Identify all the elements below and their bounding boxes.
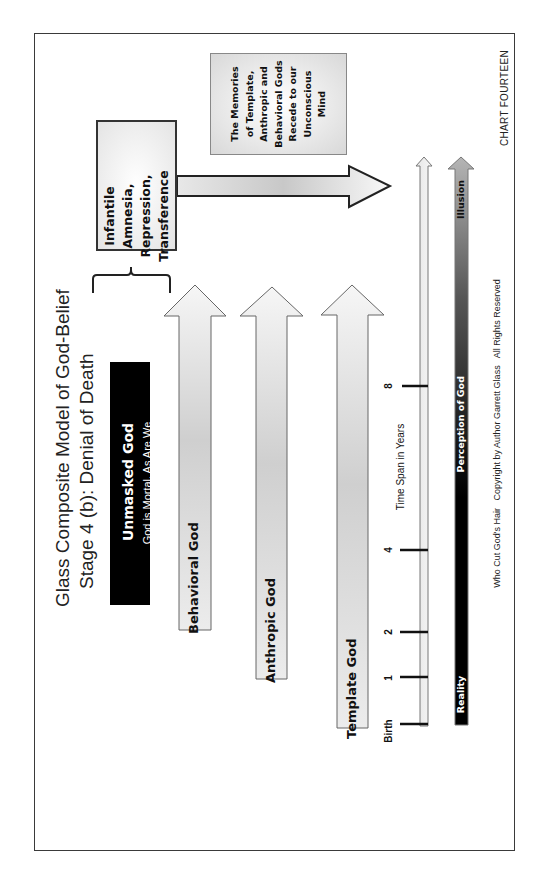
memories-line: of Template, — [243, 54, 258, 154]
timeline-arrow — [416, 157, 432, 726]
tick-label-8: 8 — [383, 379, 397, 393]
perception-illusion-label: Illusion — [455, 177, 468, 223]
infantile-line: Infantile — [101, 151, 119, 282]
perception-reality-label: Reality — [455, 670, 468, 720]
memories-line: Anthropic and — [257, 54, 272, 154]
memories-line: Unconscious — [301, 54, 316, 154]
anthropic-god-label: Anthropic God — [263, 583, 281, 683]
perception-of-god-label: Perception of God — [455, 383, 468, 473]
infantile-amnesia-text: Infantile Amnesia, Repression, Transfere… — [97, 151, 177, 282]
timeline-axis-label: Time Span in Years — [395, 417, 409, 517]
tick-label-2: 2 — [383, 625, 397, 639]
memories-text: The Memories of Template, Anthropic and … — [229, 54, 329, 154]
memories-line: Recede to our — [286, 54, 301, 154]
infantile-line: Amnesia, — [119, 151, 137, 282]
tick-label-4: 4 — [383, 543, 397, 557]
chart-label: CHART FOURTEEN — [499, 46, 513, 150]
infantile-line: Transference — [155, 151, 173, 282]
copyright-text: Who Cut God's Hair Copyright by Author G… — [492, 262, 505, 606]
title-line-1: Glass Composite Model of God-Belief — [52, 301, 78, 607]
title-line-2: Stage 4 (b): Denial of Death — [76, 369, 100, 589]
recede-arrow — [177, 166, 390, 207]
template-god-label: Template God — [344, 639, 362, 739]
memories-line: Behavioral Gods — [272, 54, 287, 154]
memories-line: The Memories — [228, 54, 243, 154]
unmasked-god-subheading: God is Mortal, As Are We — [141, 378, 155, 588]
unmasked-god-heading: Unmasked God — [120, 382, 140, 582]
behavioral-god-label: Behavioral God — [186, 534, 204, 634]
tick-label-1: 1 — [383, 671, 397, 685]
memories-line: Mind — [315, 54, 330, 154]
tick-label-birth: Birth — [383, 711, 397, 751]
infantile-line: Repression, — [137, 151, 155, 282]
